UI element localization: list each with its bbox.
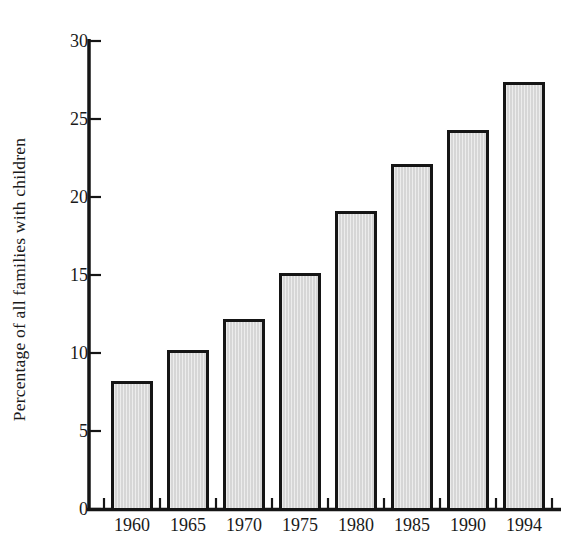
y-tick-label: 5 <box>54 422 88 440</box>
bar-1970 <box>223 319 265 511</box>
bar-1985 <box>391 164 433 511</box>
plot-area: 0510152025301960196519701975198019851990… <box>0 0 572 559</box>
y-tick-label: 0 <box>54 500 88 518</box>
y-tick-label: 15 <box>54 266 88 284</box>
y-tick-label: 10 <box>54 344 88 362</box>
y-tick-label: 25 <box>54 110 88 128</box>
x-tick-label-1965: 1965 <box>160 516 216 534</box>
x-tick-label-1985: 1985 <box>384 516 440 534</box>
x-tick-label-1970: 1970 <box>216 516 272 534</box>
bar-1965 <box>167 350 209 511</box>
y-tick-label: 30 <box>54 32 88 50</box>
x-tick-label-1980: 1980 <box>328 516 384 534</box>
x-tick-label-1975: 1975 <box>272 516 328 534</box>
bar-1990 <box>447 130 489 511</box>
y-tick-label: 20 <box>54 188 88 206</box>
bar-chart-figure: Percentage of all families with children… <box>0 0 572 559</box>
bar-1994 <box>503 82 545 511</box>
bar-1960 <box>111 381 153 511</box>
bar-1975 <box>279 273 321 511</box>
x-tick-label-1990: 1990 <box>440 516 496 534</box>
x-tick-label-1994: 1994 <box>496 516 552 534</box>
bar-1980 <box>335 211 377 511</box>
x-tick-label-1960: 1960 <box>104 516 160 534</box>
